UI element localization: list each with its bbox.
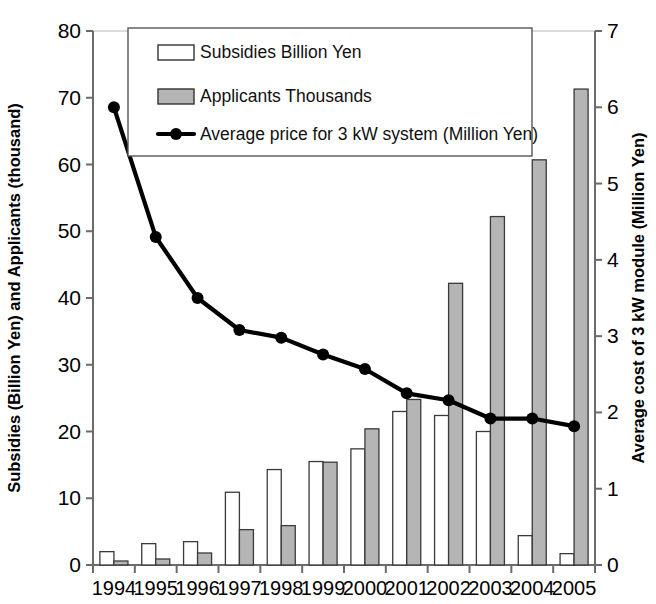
x-axis-tick-label: 1996 [175, 577, 220, 599]
y-axis-tick-label: 70 [58, 86, 81, 109]
y2-axis-tick-label: 5 [607, 172, 619, 195]
bar-subsidies-2000 [351, 449, 365, 565]
bar-subsidies-1995 [142, 544, 156, 565]
y-axis-tick-label: 30 [58, 353, 81, 376]
bar-subsidies-1997 [225, 492, 239, 565]
bar-applicants-1996 [198, 553, 212, 565]
y-axis-tick-label: 50 [58, 219, 81, 242]
chart-container: Subsidies (Billion Yen) and Applicants (… [0, 0, 656, 604]
x-axis-tick-label: 1998 [259, 577, 304, 599]
x-axis-tick-label: 1997 [217, 577, 262, 599]
price-line-marker-2004 [526, 413, 538, 425]
y2-axis-tick-label: 2 [607, 400, 619, 423]
legend-swatch-subsidies [158, 45, 194, 60]
y-axis-tick-label: 20 [58, 420, 81, 443]
bar-subsidies-1996 [184, 542, 198, 565]
bar-applicants-2001 [407, 399, 421, 565]
bar-applicants-2005 [574, 89, 588, 565]
price-line-marker-2005 [568, 420, 580, 432]
bar-subsidies-1999 [309, 462, 323, 565]
x-axis-tick-label: 1999 [301, 577, 346, 599]
y2-axis-title: Average cost of 3 kW module (Million Yen… [629, 133, 647, 464]
price-line-marker-2000 [359, 363, 371, 375]
y2-axis-tick-label: 4 [607, 248, 619, 271]
y-axis-tick-label: 0 [69, 553, 81, 576]
price-line-marker-2001 [401, 387, 413, 399]
y-axis-tick-label: 60 [58, 153, 81, 176]
bar-applicants-2003 [490, 217, 504, 565]
price-line-marker-1997 [233, 324, 245, 336]
bar-applicants-2002 [449, 283, 463, 565]
price-line-marker-1999 [317, 348, 329, 360]
x-axis-tick-label: 1994 [92, 577, 137, 599]
x-axis-tick-label: 2003 [468, 577, 513, 599]
price-line-marker-1996 [192, 292, 204, 304]
legend-swatch-applicants [158, 89, 194, 104]
price-line-marker-1994 [108, 101, 120, 113]
bar-subsidies-1994 [100, 552, 114, 565]
bar-subsidies-2004 [518, 536, 532, 565]
bar-applicants-1995 [156, 559, 170, 565]
bar-subsidies-2005 [560, 554, 574, 565]
bar-subsidies-2001 [393, 411, 407, 565]
bar-subsidies-1998 [267, 470, 281, 565]
x-axis-tick-label: 2001 [385, 577, 430, 599]
y-axis-tick-label: 40 [58, 286, 81, 309]
x-axis-tick-label: 2002 [426, 577, 471, 599]
price-line-marker-2003 [484, 413, 496, 425]
legend-swatch-price-marker [170, 128, 182, 140]
legend-label-subsidies: Subsidies Billion Yen [200, 42, 362, 62]
bar-applicants-2000 [365, 429, 379, 565]
price-line-marker-1995 [150, 231, 162, 243]
y-axis-title: Subsidies (Billion Yen) and Applicants (… [5, 103, 23, 493]
legend-layer: Subsidies Billion YenApplicants Thousand… [128, 28, 538, 156]
x-axis-tick-label: 2000 [343, 577, 388, 599]
x-axis-tick-label: 2004 [510, 577, 555, 599]
bar-subsidies-2002 [435, 415, 449, 565]
price-line-marker-1998 [275, 332, 287, 344]
x-axis-tick-label: 2005 [552, 577, 597, 599]
legend-label-average-price: Average price for 3 kW system (Million Y… [200, 124, 538, 144]
y2-axis-tick-label: 3 [607, 324, 619, 347]
bar-applicants-1999 [323, 462, 337, 565]
y2-axis-tick-label: 6 [607, 95, 619, 118]
x-axis-tick-label: 1995 [134, 577, 179, 599]
legend-label-applicants: Applicants Thousands [200, 86, 372, 106]
price-line-marker-2002 [443, 394, 455, 406]
bar-subsidies-2003 [476, 432, 490, 566]
bar-applicants-1997 [239, 530, 253, 565]
bar-applicants-2004 [532, 160, 546, 565]
y2-axis-tick-label: 0 [607, 553, 619, 576]
bar-applicants-1998 [281, 526, 295, 565]
y2-axis-tick-label: 7 [607, 19, 619, 42]
y-axis-tick-label: 10 [58, 486, 81, 509]
combination-bar-line-chart: Subsidies (Billion Yen) and Applicants (… [0, 0, 656, 604]
bar-applicants-1994 [114, 561, 128, 565]
y-axis-tick-label: 80 [58, 19, 81, 42]
y2-axis-tick-label: 1 [607, 477, 619, 500]
